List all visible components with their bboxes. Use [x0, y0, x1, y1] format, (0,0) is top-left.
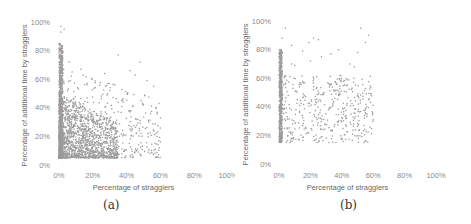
data-point [88, 112, 89, 113]
scatter-chart-b: 0%20%40%60%80%100%0%20%40%60%80%100%Perc… [235, 0, 471, 224]
data-point [88, 130, 89, 131]
data-point [90, 116, 91, 117]
data-point [64, 157, 65, 158]
data-point [65, 110, 66, 111]
data-point [280, 58, 281, 59]
data-point [315, 134, 316, 135]
data-point [115, 143, 116, 144]
data-point [63, 107, 64, 108]
data-point [115, 151, 116, 152]
data-point [364, 134, 365, 135]
data-point [59, 99, 60, 100]
data-point [118, 146, 119, 147]
data-point [65, 108, 66, 109]
data-point [302, 117, 303, 118]
data-point [101, 135, 102, 136]
data-point [292, 88, 293, 89]
data-point [315, 96, 316, 97]
data-point [103, 147, 104, 148]
data-point [103, 157, 104, 158]
data-point [116, 132, 117, 133]
data-point [289, 127, 290, 128]
data-point [159, 147, 160, 148]
data-point [70, 111, 71, 112]
data-point [95, 148, 96, 149]
data-point [71, 142, 72, 143]
data-point [102, 144, 103, 145]
data-point [101, 143, 102, 144]
data-point [74, 123, 75, 124]
data-point [72, 71, 73, 72]
data-point [370, 93, 371, 94]
data-point [285, 87, 286, 88]
data-point [336, 114, 337, 115]
data-point [83, 140, 84, 141]
data-point [364, 115, 365, 116]
data-point [81, 107, 82, 108]
data-point [357, 126, 358, 127]
data-point [122, 142, 123, 143]
data-point [110, 140, 111, 141]
data-point [99, 102, 100, 103]
data-point [87, 147, 88, 148]
data-point [291, 45, 292, 46]
data-point [280, 108, 281, 109]
data-point [77, 118, 78, 119]
data-point [279, 104, 280, 105]
data-point [92, 147, 93, 148]
data-point [89, 138, 90, 139]
data-point [354, 108, 355, 109]
data-point [81, 145, 82, 146]
data-point [140, 61, 141, 62]
data-point [103, 119, 104, 120]
data-point [67, 90, 68, 91]
data-point [343, 111, 344, 112]
data-point [156, 157, 157, 158]
data-point [335, 82, 336, 83]
data-point [87, 133, 88, 134]
data-point [68, 88, 69, 89]
data-point [68, 110, 69, 111]
data-point [106, 156, 107, 157]
data-point [60, 117, 61, 118]
data-point [93, 139, 94, 140]
data-point [338, 49, 339, 50]
data-point [85, 157, 86, 158]
data-point [330, 53, 331, 54]
data-point [59, 133, 60, 134]
data-point [310, 104, 311, 105]
data-point [281, 108, 282, 109]
data-point [315, 110, 316, 111]
data-point [71, 122, 72, 123]
data-point [63, 83, 64, 84]
data-point [88, 150, 89, 151]
data-point [73, 131, 74, 132]
data-point [92, 119, 93, 120]
data-point [62, 89, 63, 90]
data-point [85, 126, 86, 127]
data-point [70, 142, 71, 143]
data-point [333, 89, 334, 90]
data-point [60, 115, 61, 116]
data-point [370, 76, 371, 77]
data-point [78, 153, 79, 154]
data-point [60, 99, 61, 100]
data-point [111, 134, 112, 135]
data-point [89, 136, 90, 137]
data-point [280, 140, 281, 141]
data-point [68, 140, 69, 141]
y-tick-label: 80% [35, 46, 50, 55]
data-point [81, 130, 82, 131]
y-tick-label: 100% [252, 17, 272, 26]
data-point [340, 80, 341, 81]
data-point [362, 84, 363, 85]
data-point [59, 67, 60, 68]
data-point [304, 128, 305, 129]
data-point [78, 143, 79, 144]
data-point [61, 87, 62, 88]
data-point [110, 141, 111, 142]
data-point [89, 152, 90, 153]
data-point [324, 124, 325, 125]
data-point [305, 96, 306, 97]
data-point [114, 112, 115, 113]
